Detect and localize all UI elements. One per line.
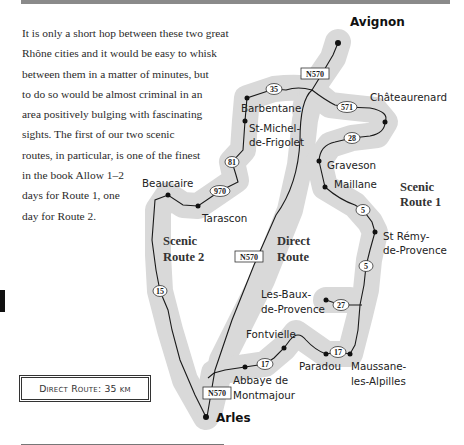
dot-arles xyxy=(203,414,209,420)
label-abbaye-2: Montmajour xyxy=(233,389,296,401)
road-marker-35: 35 xyxy=(266,84,282,95)
label-beaucaire: Beaucaire xyxy=(142,177,193,189)
direct-route-distance-box: Direct Route: 35 km xyxy=(21,377,149,400)
svg-text:35: 35 xyxy=(270,85,278,94)
svg-text:N570: N570 xyxy=(306,70,324,79)
label-maussane-2: les-Alpilles xyxy=(351,375,406,387)
dot-chateaurenard xyxy=(383,120,388,125)
label-tarascon: Tarascon xyxy=(201,212,247,224)
road-marker-17b: 17 xyxy=(257,359,273,370)
label-scenic-route-1-b: Route 1 xyxy=(400,195,441,209)
svg-text:N570: N570 xyxy=(208,389,226,398)
road-marker-970: 970 xyxy=(210,186,230,197)
svg-text:15: 15 xyxy=(156,287,164,296)
label-st-remy-1: St Rémy- xyxy=(383,230,430,242)
label-st-michel-1: St-Michel- xyxy=(249,122,300,134)
road-marker-81: 81 xyxy=(225,157,239,168)
svg-text:5: 5 xyxy=(361,206,365,215)
label-maillane: Maillane xyxy=(334,178,377,190)
dot-abbaye xyxy=(243,365,248,370)
label-maussane-1: Maussane- xyxy=(351,360,407,372)
label-st-michel-2: de-Frigolet xyxy=(249,136,304,148)
label-les-baux-2: de-Provence xyxy=(261,303,325,315)
dot-st-michel xyxy=(243,119,248,124)
svg-text:17: 17 xyxy=(261,360,269,369)
road-marker-27: 27 xyxy=(333,300,349,311)
label-scenic-route-2-a: Scenic xyxy=(163,234,197,248)
dot-paradou xyxy=(324,352,329,357)
dot-beaucaire xyxy=(166,193,171,198)
label-les-baux-1: Les-Baux- xyxy=(261,288,312,300)
road-marker-n570-bottom: N570 xyxy=(203,387,231,399)
dot-st-remy xyxy=(373,230,378,235)
road-marker-28: 28 xyxy=(344,133,360,144)
road-marker-17a: 17 xyxy=(330,347,346,358)
svg-text:571: 571 xyxy=(341,103,353,112)
dot-tarascon xyxy=(196,204,201,209)
svg-text:5: 5 xyxy=(364,262,368,271)
dot-les-baux xyxy=(324,298,329,303)
svg-text:27: 27 xyxy=(337,301,345,310)
road-marker-571: 571 xyxy=(337,102,357,113)
label-paradou: Paradou xyxy=(299,360,341,372)
svg-text:N570: N570 xyxy=(240,253,258,262)
dot-maillane xyxy=(323,185,328,190)
label-scenic-route-2-b: Route 2 xyxy=(163,250,204,264)
label-arles: Arles xyxy=(216,411,251,425)
label-fontvielle: Fontvielle xyxy=(246,328,296,340)
road-marker-5a: 5 xyxy=(356,205,370,216)
label-abbaye-1: Abbaye de xyxy=(233,374,288,386)
label-chateaurenard: Châteaurenard xyxy=(370,91,447,103)
label-scenic-route-1-a: Scenic xyxy=(400,180,434,194)
road-marker-5b: 5 xyxy=(359,261,373,272)
dot-graveson xyxy=(317,159,322,164)
road-marker-15: 15 xyxy=(153,286,167,297)
svg-text:17: 17 xyxy=(334,348,342,357)
svg-text:28: 28 xyxy=(348,134,356,143)
dot-fontvielle xyxy=(282,346,287,351)
dot-maussane xyxy=(348,352,353,357)
dot-avignon xyxy=(335,40,341,46)
label-direct-route-a: Direct xyxy=(277,234,311,248)
label-graveson: Graveson xyxy=(327,159,376,171)
road-marker-n570-top: N570 xyxy=(301,68,329,79)
dot-barbentane xyxy=(245,96,250,101)
label-st-remy-2: de-Provence xyxy=(383,244,447,256)
distance-label: Direct Route: 35 km xyxy=(39,383,131,394)
svg-text:970: 970 xyxy=(214,187,226,196)
label-barbentane: Barbentane xyxy=(241,102,301,114)
road-marker-n570-mid: N570 xyxy=(235,251,263,262)
label-avignon: Avignon xyxy=(350,15,405,29)
label-direct-route-b: Route xyxy=(277,250,309,264)
svg-text:81: 81 xyxy=(228,158,236,167)
